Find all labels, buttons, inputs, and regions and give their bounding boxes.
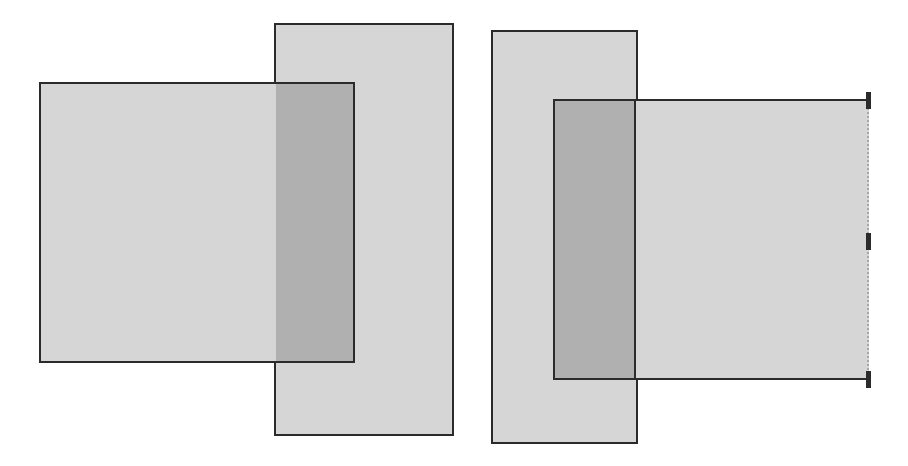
resize-handle-top-right[interactable] bbox=[866, 92, 871, 109]
resize-handle-middle-right[interactable] bbox=[866, 233, 871, 250]
resize-handle-bottom-right[interactable] bbox=[866, 371, 871, 388]
right-overlap-region bbox=[555, 101, 636, 378]
left-overlap-region bbox=[276, 84, 353, 361]
